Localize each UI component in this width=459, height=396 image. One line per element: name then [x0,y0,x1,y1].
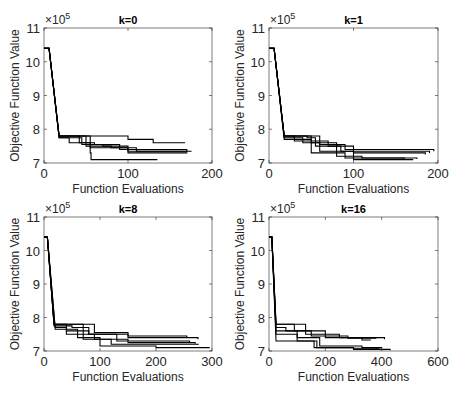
y-tick-label: 9 [33,89,40,104]
x-tick-label: 100 [89,354,111,369]
y-axis-label: Objective Function Value [233,29,247,162]
figure-canvas: 78910110100200×105k=0Function Evaluation… [0,0,459,396]
subplot-title: k=1 [344,14,363,26]
y-tick-label: 11 [252,21,266,36]
x-tick-label: 0 [40,166,47,181]
y-axis-label: Objective Function Value [8,29,22,162]
axes-box [269,28,438,163]
y-multiplier: ×105 [270,11,295,27]
subplot-k-16: 78910110200400600×105k=16Function Evalua… [233,200,449,384]
x-axis-label: Function Evaluations [298,182,409,196]
y-tick-label: 10 [26,55,40,70]
x-tick-label: 400 [371,354,393,369]
y-tick-label: 10 [251,55,265,70]
y-tick-label: 7 [258,344,265,359]
x-axis-label: Function Evaluations [72,370,183,384]
y-tick-label: 7 [33,156,40,171]
y-tick-label: 9 [258,89,265,104]
y-multiplier: ×105 [270,200,295,216]
x-tick-label: 200 [145,354,167,369]
subplot-title: k=8 [119,203,138,215]
y-tick-label: 9 [258,277,265,292]
x-tick-label: 200 [427,166,449,181]
subplot-k-1: 78910110100200×105k=1Function Evaluation… [233,11,449,196]
y-tick-label: 11 [27,21,41,36]
y-tick-label: 10 [251,244,265,259]
x-tick-label: 600 [427,354,449,369]
y-tick-label: 8 [258,122,265,137]
subplot-k-8: 78910110100200300×105k=8Function Evaluat… [8,200,223,384]
y-tick-label: 7 [258,156,265,171]
x-tick-label: 100 [343,166,365,181]
y-multiplier: ×105 [45,11,70,27]
x-tick-label: 100 [117,166,139,181]
x-tick-label: 200 [314,354,336,369]
y-multiplier: ×105 [45,200,70,216]
y-tick-label: 11 [252,210,266,225]
y-tick-label: 11 [27,210,41,225]
y-tick-label: 9 [33,277,40,292]
y-axis-label: Objective Function Value [8,217,22,350]
y-tick-label: 8 [33,311,40,326]
subplot-k-0: 78910110100200×105k=0Function Evaluation… [8,11,223,196]
y-tick-label: 8 [33,122,40,137]
y-axis-label: Objective Function Value [233,217,247,350]
figure: 78910110100200×105k=0Function Evaluation… [0,0,459,396]
subplot-title: k=16 [341,203,366,215]
x-tick-label: 300 [201,354,223,369]
x-tick-label: 200 [201,166,223,181]
y-tick-label: 7 [33,344,40,359]
subplot-title: k=0 [119,14,138,26]
x-axis-label: Function Evaluations [298,370,409,384]
y-tick-label: 8 [258,311,265,326]
x-tick-label: 0 [265,354,272,369]
x-axis-label: Function Evaluations [72,182,183,196]
x-tick-label: 0 [265,166,272,181]
y-tick-label: 10 [26,244,40,259]
x-tick-label: 0 [40,354,47,369]
